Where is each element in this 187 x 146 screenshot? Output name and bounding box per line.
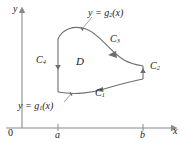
x-axis-label: x (173, 126, 177, 136)
curve-label-c1: C1 (95, 88, 105, 99)
curve-label-c4-letter: C (36, 54, 43, 65)
x-tick-label-a: a (55, 130, 60, 140)
curve-label-c2-letter: C (150, 60, 157, 71)
curve-label-c1-letter: C (95, 87, 102, 98)
curve-c3-direction-arrow (108, 51, 117, 58)
figure-canvas (0, 0, 187, 146)
curve-label-c3-subscript: 3 (117, 37, 120, 44)
curve-label-c4-subscript: 4 (43, 58, 46, 65)
g2-leader-line (83, 17, 92, 28)
curve-label-c3: C3 (110, 34, 120, 45)
curve-label-c3-letter: C (110, 33, 117, 44)
curve-label-c4: C4 (36, 55, 46, 66)
y-axis-label: y (13, 4, 17, 14)
curve-label-c2-subscript: 2 (157, 64, 160, 71)
curve-c2-direction-arrow (140, 68, 146, 73)
region-label-d: D (76, 56, 84, 67)
origin-label: 0 (8, 128, 13, 138)
curve-label-c1-subscript: 1 (102, 91, 105, 98)
upper-function-label: y = g2(x) (88, 8, 123, 19)
curve-c3-path (58, 27, 143, 66)
lower-function-lhs: y = g (18, 100, 39, 111)
upper-function-arg: (x) (112, 7, 123, 18)
curve-label-c2: C2 (150, 61, 160, 72)
lower-function-label: y = g1(x) (18, 101, 53, 112)
curve-c4-direction-arrow (55, 65, 61, 70)
g1-leader-line (64, 94, 71, 102)
upper-function-lhs: y = g (88, 7, 109, 18)
greens-theorem-figure: y x 0 a b D C1 C2 C3 C4 y = g2(x) y = g1… (0, 0, 187, 146)
x-tick-label-b: b (140, 130, 145, 140)
lower-function-arg: (x) (42, 100, 53, 111)
